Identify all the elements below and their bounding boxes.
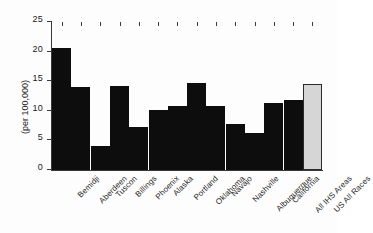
y-tick-label: 5 [38, 132, 43, 142]
bar-rect [91, 146, 110, 170]
y-axis-label-text: (per 100,000) [20, 80, 30, 134]
x-tick [100, 22, 101, 26]
y-tick-label: 0 [38, 162, 43, 172]
x-label-bemidji: Bemidji [76, 174, 101, 199]
x-tick [81, 22, 82, 26]
x-tick [255, 22, 256, 26]
x-tick [274, 22, 275, 26]
y-tick-label: 15 [33, 73, 43, 83]
bar-rect [52, 48, 71, 170]
x-tick [216, 22, 217, 26]
x-tick [177, 22, 178, 26]
bar-rect [149, 110, 168, 170]
x-axis-category-labels: BemidjiAberdeenTusconBillingsPhoenixAlas… [52, 174, 332, 232]
bar-rect [303, 84, 322, 170]
x-tick [139, 22, 140, 26]
x-tick [62, 22, 63, 26]
x-tick [235, 22, 236, 26]
y-tick-label: 25 [33, 14, 43, 24]
bar-rect [226, 124, 245, 170]
bar-rect [71, 87, 90, 170]
bar-rect [264, 103, 283, 170]
bar-rect [284, 100, 303, 170]
bar-rect [245, 133, 264, 170]
x-tick [158, 22, 159, 26]
y-tick-label: 20 [33, 44, 43, 54]
x-tick [197, 22, 198, 26]
x-axis-line [51, 170, 323, 171]
x-tick [293, 22, 294, 26]
bar-rect [129, 127, 148, 170]
bar-series [52, 22, 322, 170]
bar-rect [110, 86, 129, 170]
y-tick-label: 10 [33, 103, 43, 113]
bar-rect [168, 106, 187, 170]
x-tick [312, 22, 313, 26]
x-label-nashville: Nashville [251, 174, 281, 204]
x-tick [120, 22, 121, 26]
bar-rect [187, 83, 206, 170]
plot-area: 0510152025 [52, 22, 322, 170]
bar-rect [206, 106, 225, 170]
